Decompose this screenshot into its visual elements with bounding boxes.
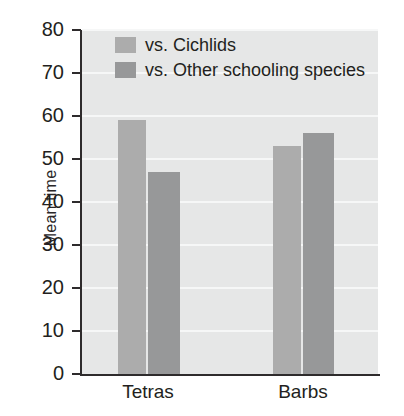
legend-label: vs. Other schooling species xyxy=(145,60,365,80)
y-axis-tick-label: 30 xyxy=(4,234,64,254)
x-axis-category-label: Barbs xyxy=(243,381,363,403)
y-axis-tick xyxy=(72,201,81,203)
y-axis-tick xyxy=(72,29,81,31)
y-axis-tick-label: 80 xyxy=(4,19,64,39)
legend-swatch-icon xyxy=(115,37,136,53)
y-axis-tick-label: 50 xyxy=(4,148,64,168)
y-axis-tick xyxy=(72,158,81,160)
y-axis-tick xyxy=(72,115,81,117)
y-axis-tick-label: 60 xyxy=(4,105,64,125)
y-axis-tick-label: 70 xyxy=(4,62,64,82)
bar xyxy=(118,120,146,374)
y-axis-tick xyxy=(72,244,81,246)
y-axis-tick-label: 0 xyxy=(4,363,64,383)
gridline xyxy=(82,29,378,31)
y-axis-tick xyxy=(72,373,81,375)
y-axis-tick xyxy=(72,330,81,332)
legend-item: vs. Cichlids xyxy=(115,33,365,56)
chart-legend: vs. Cichlidsvs. Other schooling species xyxy=(115,33,365,83)
y-axis-tick-label: 10 xyxy=(4,320,64,340)
y-axis-tick-label: 40 xyxy=(4,191,64,211)
legend-label: vs. Cichlids xyxy=(145,35,236,55)
y-axis-line xyxy=(80,30,82,376)
bar-chart-figure: Mean time 80706050403020100 TetrasBarbs … xyxy=(0,0,404,416)
x-axis-line xyxy=(80,374,380,376)
y-axis-tick xyxy=(72,287,81,289)
bar xyxy=(148,172,180,374)
y-axis-tick xyxy=(72,72,81,74)
legend-item: vs. Other schooling species xyxy=(115,58,365,81)
legend-swatch-icon xyxy=(115,62,136,78)
bar xyxy=(303,133,334,374)
bar xyxy=(273,146,301,374)
x-axis-category-label: Tetras xyxy=(88,381,208,403)
gridline xyxy=(82,115,378,117)
y-axis-tick-label: 20 xyxy=(4,277,64,297)
